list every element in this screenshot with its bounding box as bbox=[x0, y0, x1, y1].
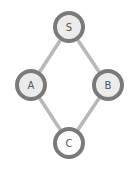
node-a-label: A bbox=[28, 80, 35, 91]
node-b-label: B bbox=[105, 80, 112, 91]
node-a[interactable]: A bbox=[17, 71, 45, 99]
node-s-label: S bbox=[66, 22, 72, 33]
graph-diagram: S A B C bbox=[0, 0, 137, 170]
node-c[interactable]: C bbox=[55, 129, 83, 157]
node-b[interactable]: B bbox=[94, 71, 122, 99]
node-s[interactable]: S bbox=[55, 13, 83, 41]
node-c-label: C bbox=[66, 138, 73, 149]
